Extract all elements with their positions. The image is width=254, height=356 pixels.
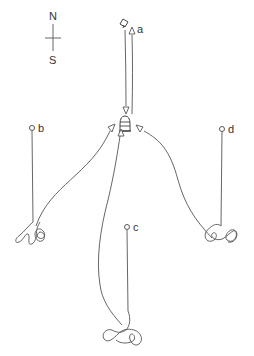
site-d: d [136, 123, 237, 242]
site-a: a [120, 19, 144, 114]
site-b: b [16, 122, 115, 244]
path-c-to-hive [98, 136, 122, 325]
path-hive-to-a [132, 35, 133, 114]
arrow-head-icon [123, 107, 129, 114]
path-a-to-hive [125, 30, 126, 106]
arrow-head-icon [129, 27, 135, 34]
arrow-head-icon [136, 125, 143, 132]
compass-north-label: N [49, 10, 57, 22]
release-point-icon [220, 127, 225, 132]
site-b-label: b [38, 122, 44, 134]
site-d-label: d [228, 123, 234, 135]
search-loop-d [205, 224, 237, 242]
arrow-head-icon [108, 124, 115, 132]
search-loop-b [16, 222, 45, 244]
site-a-label: a [137, 23, 144, 35]
release-point-icon [125, 225, 130, 230]
site-c-label: c [133, 221, 139, 233]
path-b-to-hive [36, 131, 110, 226]
foraging-path-diagram: N S a b d [0, 0, 254, 356]
path-d-to-hive [144, 131, 212, 238]
search-loop-c [103, 311, 141, 345]
compass: N S [45, 10, 61, 66]
site-c: c [98, 129, 141, 345]
compass-south-label: S [49, 54, 56, 66]
release-point-icon [30, 126, 35, 131]
